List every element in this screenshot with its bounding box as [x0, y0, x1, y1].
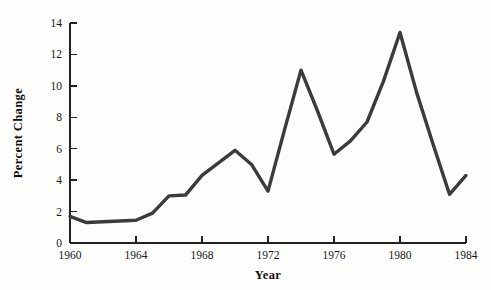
- x-tick-label: 1980: [389, 249, 412, 261]
- x-axis-ticks: 1960196419681972197619801984: [59, 236, 478, 261]
- x-tick-label: 1976: [323, 249, 346, 261]
- y-tick-label: 12: [51, 48, 63, 60]
- y-tick-label: 6: [56, 143, 62, 155]
- data-series-line: [70, 32, 466, 222]
- x-axis-title: Year: [255, 268, 282, 282]
- y-tick-label: 0: [56, 237, 62, 249]
- y-tick-label: 10: [51, 80, 63, 92]
- chart-plot-area: 02468101214 1960196419681972197619801984…: [0, 0, 491, 290]
- y-tick-label: 14: [51, 17, 63, 29]
- x-tick-label: 1984: [455, 249, 478, 261]
- y-axis-title: Percent Change: [11, 88, 25, 178]
- y-tick-label: 2: [56, 206, 62, 218]
- y-tick-label: 4: [56, 174, 62, 186]
- x-tick-label: 1964: [125, 249, 148, 261]
- y-axis-ticks: 02468101214: [51, 17, 78, 249]
- x-tick-label: 1968: [191, 249, 214, 261]
- x-tick-label: 1972: [257, 249, 280, 261]
- y-tick-label: 8: [56, 111, 62, 123]
- x-tick-label: 1960: [59, 249, 82, 261]
- line-chart-figure: 02468101214 1960196419681972197619801984…: [0, 0, 491, 290]
